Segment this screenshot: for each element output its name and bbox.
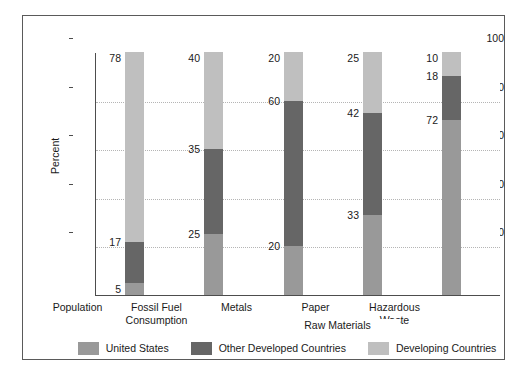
bar-segment-other-developed: 42 <box>363 113 382 215</box>
bar-segment-us: 33 <box>363 215 382 295</box>
bar-segment-other-developed: 60 <box>284 101 303 247</box>
bar-value-label-us: 20 <box>268 241 280 252</box>
legend-label: United States <box>106 342 169 354</box>
y-tick-mark-60 <box>69 135 73 136</box>
bar-value-label-developing: 10 <box>426 53 438 64</box>
bar-value-label-us: 72 <box>426 115 438 126</box>
x-axis-label-line: Consumption <box>102 314 212 327</box>
y-tick-mark-80 <box>69 87 73 88</box>
bar-value-label-other-developed: 60 <box>268 96 280 107</box>
legend-label: Other Developed Countries <box>219 342 346 354</box>
bar-segment-us: 72 <box>442 120 461 295</box>
chart-legend: United States Other Developed Countries … <box>56 336 518 360</box>
bar-value-label-other-developed: 35 <box>188 144 200 155</box>
bar-segment-developing: 78 <box>125 52 144 242</box>
raw-materials-label: Raw Materials <box>275 319 400 331</box>
bar-value-label-developing: 40 <box>188 53 200 64</box>
bar-segment-other-developed: 35 <box>204 149 223 234</box>
plot-area: 5 17 78 25 35 40 20 <box>95 53 500 296</box>
legend-item-other-developed-countries[interactable]: Other Developed Countries <box>191 342 346 355</box>
x-axis-label-line: Hazardous <box>340 301 450 314</box>
bar-segment-us: 20 <box>284 246 303 295</box>
bar-segment-other-developed: 18 <box>442 76 461 120</box>
bar-segment-us: 25 <box>204 234 223 295</box>
legend-item-developing-countries[interactable]: Developing Countries <box>368 342 496 355</box>
bar-value-label-other-developed: 18 <box>426 71 438 82</box>
bar-segment-developing: 20 <box>284 52 303 101</box>
y-tick-label-100: 100 <box>474 32 504 44</box>
legend-label: Developing Countries <box>396 342 496 354</box>
bar-segment-developing: 10 <box>442 52 461 76</box>
y-tick-mark-40 <box>69 184 73 185</box>
bar-value-label-developing: 78 <box>109 53 121 64</box>
bar-value-label-other-developed: 42 <box>347 108 359 119</box>
raw-materials-group-annotation: Raw Materials <box>275 315 400 332</box>
y-tick-mark-20 <box>69 232 73 233</box>
legend-swatch-icon <box>368 342 389 355</box>
bar-value-label-us: 33 <box>347 210 359 221</box>
bar-value-label-us: 5 <box>115 284 121 295</box>
bar-value-label-us: 25 <box>188 229 200 240</box>
legend-item-united-states[interactable]: United States <box>78 342 169 355</box>
bar-segment-developing: 40 <box>204 52 223 149</box>
bar-value-label-developing: 25 <box>347 53 359 64</box>
bar-segment-other-developed: 17 <box>125 242 144 283</box>
bar-segment-us: 5 <box>125 283 144 295</box>
legend-swatch-icon <box>191 342 212 355</box>
legend-swatch-icon <box>78 342 99 355</box>
y-tick-mark-100 <box>69 38 73 39</box>
y-axis-title: Percent <box>49 138 61 174</box>
bar-value-label-developing: 20 <box>268 53 280 64</box>
bar-segment-developing: 25 <box>363 52 382 113</box>
chart-figure-frame: Percent 100 80 60 40 20 5 17 78 <box>22 15 505 360</box>
bar-value-label-other-developed: 17 <box>109 237 121 248</box>
